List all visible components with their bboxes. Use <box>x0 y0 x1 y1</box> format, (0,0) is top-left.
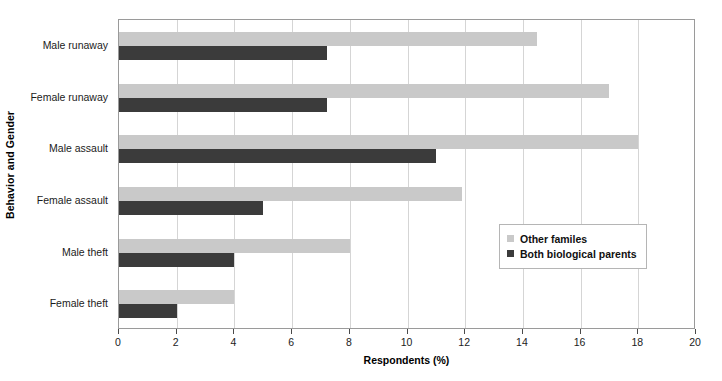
x-axis-tick-label: 14 <box>516 336 528 348</box>
gridline <box>581 20 582 328</box>
bar <box>119 135 638 149</box>
x-axis-tick-label: 12 <box>458 336 470 348</box>
x-axis-tick-label: 20 <box>689 336 701 348</box>
gridline <box>408 20 409 328</box>
y-axis-tick-label: Female runaway <box>30 91 108 103</box>
legend-swatch-icon <box>507 235 514 242</box>
gridline <box>292 20 293 328</box>
x-axis-tick <box>118 329 119 334</box>
y-axis-tick-labels: Male runawayFemale runawayMale assaultFe… <box>22 19 114 329</box>
legend: Other familesBoth biological parents <box>499 224 647 269</box>
gridline <box>177 20 178 328</box>
legend-item: Other familes <box>507 231 637 246</box>
y-axis-tick-label: Female assault <box>37 194 108 206</box>
bar <box>119 187 462 201</box>
bar <box>119 253 234 267</box>
y-axis-tick-label: Female theft <box>50 297 108 309</box>
plot-area <box>118 19 695 329</box>
x-axis-tick <box>349 329 350 334</box>
y-axis-tick-label: Male assault <box>49 142 108 154</box>
x-axis-tick <box>580 329 581 334</box>
y-axis-title: Behavior and Gender <box>0 0 20 330</box>
x-axis-tick <box>695 329 696 334</box>
bar <box>119 149 436 163</box>
x-axis-tick-label: 4 <box>230 336 236 348</box>
x-axis-tick <box>176 329 177 334</box>
bar <box>119 46 327 60</box>
y-axis-tick-label: Male runaway <box>43 39 108 51</box>
gridline <box>234 20 235 328</box>
bar <box>119 201 263 215</box>
x-axis-tick-label: 8 <box>346 336 352 348</box>
x-axis-tick <box>522 329 523 334</box>
x-axis-ticks <box>118 329 695 335</box>
x-axis-tick-label: 6 <box>288 336 294 348</box>
y-axis-tick-label: Male theft <box>62 246 108 258</box>
x-axis-tick <box>407 329 408 334</box>
x-axis-tick <box>464 329 465 334</box>
x-axis-tick-label: 16 <box>574 336 586 348</box>
x-axis-tick-label: 2 <box>173 336 179 348</box>
bar <box>119 239 350 253</box>
x-axis-tick-label: 10 <box>401 336 413 348</box>
gridline <box>523 20 524 328</box>
gridline <box>465 20 466 328</box>
bar <box>119 84 609 98</box>
y-axis-title-text: Behavior and Gender <box>4 111 16 219</box>
legend-swatch-icon <box>507 250 514 257</box>
bar <box>119 98 327 112</box>
bar <box>119 32 537 46</box>
x-axis-tick <box>233 329 234 334</box>
x-axis-title: Respondents (%) <box>118 354 695 366</box>
gridline <box>350 20 351 328</box>
legend-item-label: Both biological parents <box>520 248 637 260</box>
legend-item-label: Other familes <box>520 233 587 245</box>
x-axis-tick-label: 18 <box>631 336 643 348</box>
x-axis-tick <box>291 329 292 334</box>
x-axis-tick <box>637 329 638 334</box>
bar-chart: Behavior and Gender Male runawayFemale r… <box>0 0 722 381</box>
legend-item: Both biological parents <box>507 246 637 261</box>
x-axis-tick-label: 0 <box>115 336 121 348</box>
bar <box>119 304 177 318</box>
gridline <box>638 20 639 328</box>
x-axis-tick-labels: 02468101214161820 <box>118 336 695 352</box>
bar <box>119 290 234 304</box>
